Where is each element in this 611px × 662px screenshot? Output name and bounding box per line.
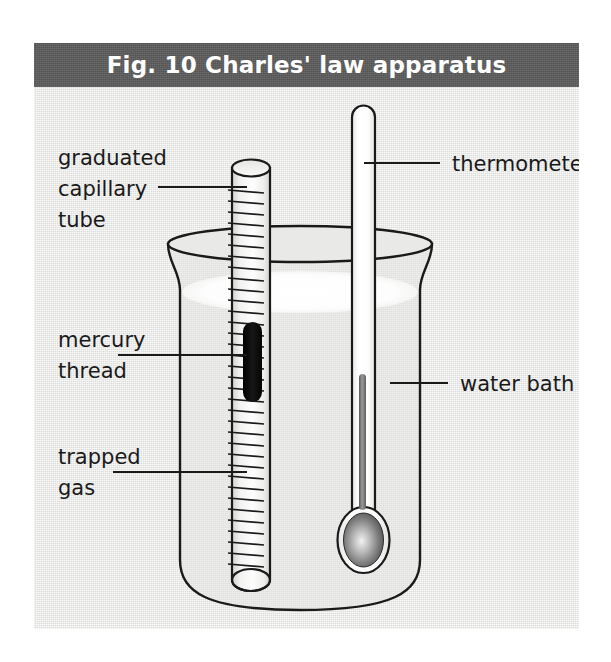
label-graduated-capillary-tube: graduated capillary tube — [58, 146, 167, 232]
label-capillary-line3: tube — [58, 208, 106, 232]
beaker-rim — [168, 226, 432, 262]
graduated-capillary-tube — [228, 160, 270, 592]
label-mercury-line1: mercury — [58, 328, 145, 352]
label-capillary-line2: capillary — [58, 177, 147, 201]
capillary-tube-mouth — [232, 160, 270, 177]
label-mercury-line2: thread — [58, 359, 127, 383]
thermometer-fluid-column — [359, 374, 366, 510]
label-water-bath: water bath — [460, 372, 574, 396]
label-capillary-line1: graduated — [58, 146, 167, 170]
label-trapped-gas-line1: trapped — [58, 445, 141, 469]
label-thermometer: thermometer — [452, 152, 592, 176]
mercury-thread-pill — [243, 322, 262, 402]
water-surface — [182, 271, 418, 313]
water-bath-beaker — [168, 226, 432, 610]
apparatus-diagram: graduated capillary tube mercury thread … — [0, 0, 611, 662]
thermometer-bulb-fluid — [344, 513, 384, 567]
figure-page: Fig. 10 Charles' law apparatus — [0, 0, 611, 662]
label-trapped-gas-line2: gas — [58, 476, 95, 500]
